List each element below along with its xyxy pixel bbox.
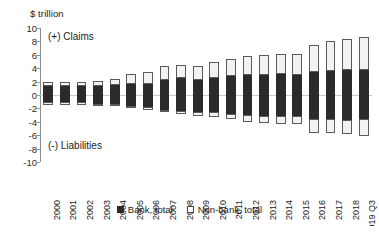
bar-segment-nonbank-claims xyxy=(143,72,153,84)
bar-segment-bank-liabilities xyxy=(209,95,219,112)
bar-segment-bank-liabilities xyxy=(309,95,319,119)
bar-column[interactable] xyxy=(243,28,253,162)
bar-column[interactable] xyxy=(276,28,286,162)
bar-segment-nonbank-liabilities xyxy=(209,112,219,117)
bar-segment-bank-liabilities xyxy=(292,95,302,116)
bar-segment-nonbank-claims xyxy=(209,62,219,79)
annotation-claims: (+) Claims xyxy=(48,31,94,42)
bar-segment-nonbank-claims xyxy=(326,41,336,71)
bar-segment-bank-claims xyxy=(43,86,53,95)
bar-segment-bank-claims xyxy=(110,85,120,95)
bar-segment-bank-claims xyxy=(193,80,203,95)
bar-column[interactable] xyxy=(292,28,302,162)
bar-segment-nonbank-claims xyxy=(226,59,236,76)
x-axis-tick-labels: 2000200120022003200420052006200720082009… xyxy=(40,164,372,202)
bar-segment-bank-claims xyxy=(176,78,186,95)
bar-segment-bank-claims xyxy=(209,78,219,95)
bar-column[interactable] xyxy=(143,28,153,162)
bar-segment-nonbank-liabilities xyxy=(43,102,53,105)
bar-segment-bank-liabilities xyxy=(326,95,336,119)
bar-segment-nonbank-claims xyxy=(193,66,203,80)
bar-segment-bank-claims xyxy=(359,70,369,95)
bar-segment-nonbank-liabilities xyxy=(276,116,286,124)
bar-segment-bank-liabilities xyxy=(143,95,153,107)
bar-column[interactable] xyxy=(193,28,203,162)
bar-segment-nonbank-claims xyxy=(292,54,302,75)
bar-segment-nonbank-claims xyxy=(309,45,319,71)
bar-column[interactable] xyxy=(309,28,319,162)
bar-segment-bank-claims xyxy=(143,84,153,95)
bar-segment-nonbank-claims xyxy=(259,55,269,74)
bar-segment-nonbank-liabilities xyxy=(160,110,170,112)
bar-column[interactable] xyxy=(326,28,336,162)
bar-segment-nonbank-liabilities xyxy=(292,116,302,125)
bar-segment-bank-liabilities xyxy=(193,95,203,112)
bar-segment-bank-liabilities xyxy=(276,95,286,116)
bar-segment-bank-liabilities xyxy=(60,95,70,102)
bar-segment-bank-liabilities xyxy=(243,95,253,115)
bar-segment-nonbank-claims xyxy=(110,79,120,85)
bar-segment-bank-claims xyxy=(126,84,136,95)
bar-segment-nonbank-claims xyxy=(60,82,70,86)
bar-segment-nonbank-liabilities xyxy=(77,102,87,105)
legend-label-nonbank: Non-bank, total xyxy=(198,204,262,215)
y-axis-tickmark xyxy=(36,162,40,163)
bar-column[interactable] xyxy=(259,28,269,162)
bar-segment-bank-liabilities xyxy=(359,95,369,119)
legend-swatch-bank-icon xyxy=(117,206,124,213)
bar-segment-nonbank-liabilities xyxy=(193,112,203,116)
bar-segment-nonbank-liabilities xyxy=(326,119,336,132)
bar-segment-bank-liabilities xyxy=(160,95,170,110)
y-axis-tick-neg10: -10 xyxy=(23,157,37,168)
bar-segment-bank-claims xyxy=(309,72,319,95)
bar-segment-nonbank-claims xyxy=(342,39,352,70)
legend-item-bank[interactable]: Bank, total xyxy=(117,204,173,215)
bar-segment-nonbank-claims xyxy=(176,65,186,78)
bar-segment-nonbank-liabilities xyxy=(176,111,186,114)
legend-swatch-nonbank-icon xyxy=(187,206,194,213)
bar-segment-bank-liabilities xyxy=(77,95,87,102)
bar-segment-bank-claims xyxy=(226,76,236,95)
bar-segment-nonbank-liabilities xyxy=(110,104,120,106)
bar-segment-bank-liabilities xyxy=(110,95,120,104)
bar-segment-bank-claims xyxy=(292,75,302,95)
bar-segment-nonbank-claims xyxy=(126,74,136,84)
bar-segment-bank-claims xyxy=(342,70,352,95)
bar-segment-bank-claims xyxy=(243,75,253,95)
bar-column[interactable] xyxy=(342,28,352,162)
bar-segment-nonbank-liabilities xyxy=(226,114,236,119)
annotation-liabilities: (-) Liabilities xyxy=(48,140,102,151)
bar-column[interactable] xyxy=(110,28,120,162)
bar-segment-bank-claims xyxy=(326,71,336,95)
bar-segment-nonbank-liabilities xyxy=(93,104,103,107)
bar-segment-bank-liabilities xyxy=(176,95,186,111)
bar-column[interactable] xyxy=(126,28,136,162)
bar-segment-bank-claims xyxy=(276,74,286,95)
bar-segment-bank-liabilities xyxy=(93,95,103,104)
bar-column[interactable] xyxy=(226,28,236,162)
bar-segment-bank-claims xyxy=(77,86,87,95)
bar-segment-nonbank-liabilities xyxy=(60,102,70,105)
bar-segment-nonbank-liabilities xyxy=(359,119,369,136)
bar-segment-bank-liabilities xyxy=(226,95,236,114)
bar-segment-nonbank-claims xyxy=(160,66,170,80)
bar-column[interactable] xyxy=(160,28,170,162)
bar-segment-nonbank-liabilities xyxy=(259,116,269,123)
bar-column[interactable] xyxy=(176,28,186,162)
legend-item-nonbank[interactable]: Non-bank, total xyxy=(187,204,262,215)
bar-segment-bank-liabilities xyxy=(259,95,269,116)
bar-segment-bank-claims xyxy=(160,80,170,95)
bar-segment-nonbank-liabilities xyxy=(243,115,253,122)
bar-segment-nonbank-claims xyxy=(243,56,253,75)
bar-segment-bank-claims xyxy=(60,86,70,95)
bar-segment-nonbank-claims xyxy=(359,37,369,70)
bar-segment-bank-claims xyxy=(93,86,103,95)
bar-segment-bank-liabilities xyxy=(43,95,53,102)
bar-segment-nonbank-liabilities xyxy=(143,107,153,110)
bar-segment-nonbank-liabilities xyxy=(309,119,319,132)
bar-segment-bank-liabilities xyxy=(126,95,136,106)
bar-segment-nonbank-claims xyxy=(93,81,103,86)
bar-column[interactable] xyxy=(209,28,219,162)
bar-column[interactable] xyxy=(359,28,369,162)
bar-segment-bank-liabilities xyxy=(342,95,352,120)
